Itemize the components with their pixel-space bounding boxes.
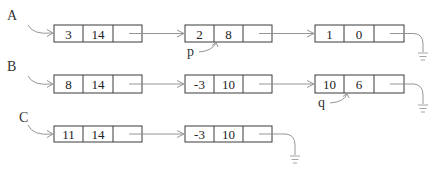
list-c-node-1: 11 14 [54, 126, 142, 142]
list-b-node-2: -3 10 [185, 75, 272, 93]
list-c-head-arrow [28, 125, 52, 134]
node-value: 8 [225, 27, 232, 42]
node-value: 10 [222, 77, 235, 92]
list-a: A 3 14 2 8 p 1 [7, 8, 428, 60]
list-c-label: C [19, 110, 28, 125]
null-ground-icon [418, 53, 428, 60]
node-value: 14 [92, 127, 106, 142]
node-data: 8 [65, 77, 72, 92]
node-value: 10 [222, 127, 235, 142]
list-a-head-arrow [28, 25, 52, 33]
list-b-node-1: 8 14 [54, 75, 142, 93]
node-value: 14 [92, 27, 106, 42]
node-value: 6 [356, 77, 363, 92]
list-c: C 11 14 -3 10 [19, 110, 300, 163]
node-data: 11 [62, 127, 75, 142]
null-ground-icon [290, 156, 300, 163]
node-data: 2 [196, 27, 203, 42]
list-a-label: A [7, 8, 18, 23]
node-data: -3 [194, 127, 205, 142]
null-ground-icon [418, 105, 428, 112]
list-b-label: B [7, 59, 16, 74]
node-data: 3 [65, 27, 72, 42]
node-data: 10 [323, 77, 336, 92]
node-value: 0 [356, 27, 363, 42]
linked-list-diagram: A 3 14 2 8 p 1 [0, 0, 448, 174]
list-b-head-arrow [28, 76, 52, 84]
node-data: -3 [194, 77, 205, 92]
node-data: 1 [326, 27, 333, 42]
list-c-node-2: -3 10 [185, 126, 272, 142]
list-a-node-1: 3 14 [54, 25, 142, 42]
node-value: 14 [92, 77, 106, 92]
pointer-p-label: p [187, 44, 194, 59]
list-b: B 8 14 -3 10 10 6 [7, 59, 428, 112]
pointer-q-label: q [318, 95, 325, 110]
list-a-node-2: 2 8 [185, 25, 272, 42]
